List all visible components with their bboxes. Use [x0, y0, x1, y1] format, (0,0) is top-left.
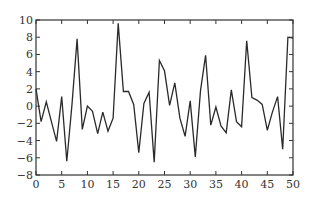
x-axis: 05101520253035404550: [33, 20, 301, 191]
y-tick-label: 6: [26, 48, 33, 61]
y-tick-label: 4: [26, 66, 33, 79]
chart-canvas: −8−6−4−20246810 05101520253035404550: [0, 0, 315, 200]
y-tick-label: −4: [17, 135, 33, 148]
x-tick-label: 15: [106, 178, 120, 191]
x-tick-label: 5: [58, 178, 65, 191]
y-tick-label: 2: [26, 83, 33, 96]
x-tick-label: 35: [209, 178, 223, 191]
y-tick-label: 10: [19, 14, 33, 27]
x-tick-label: 45: [260, 178, 274, 191]
x-tick-label: 0: [33, 178, 40, 191]
data-series-line: [36, 23, 293, 162]
x-tick-label: 20: [132, 178, 146, 191]
plot-frame: [36, 20, 293, 175]
x-tick-label: 50: [286, 178, 300, 191]
y-tick-label: −6: [17, 152, 33, 165]
line-chart: −8−6−4−20246810 05101520253035404550: [0, 0, 315, 200]
y-tick-label: 8: [26, 31, 33, 44]
y-tick-label: −8: [17, 169, 33, 182]
x-tick-label: 10: [80, 178, 94, 191]
y-tick-label: 0: [26, 100, 33, 113]
x-tick-label: 40: [235, 178, 249, 191]
y-tick-label: −2: [17, 117, 33, 130]
x-tick-label: 30: [183, 178, 197, 191]
x-tick-label: 25: [158, 178, 172, 191]
